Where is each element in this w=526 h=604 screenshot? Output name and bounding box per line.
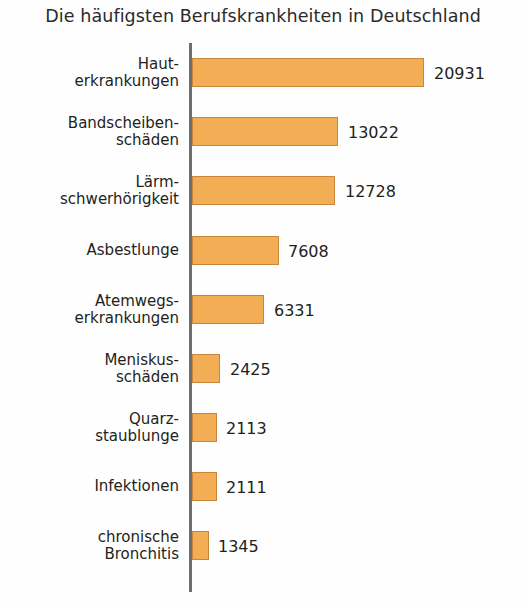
bar-value-label: 7608 (288, 241, 329, 260)
bar-row: Bandscheiben- schäden 13022 (0, 117, 526, 146)
bar-category-label: Lärm- schwerhörigkeit (0, 173, 179, 208)
plot-area: Haut- erkrankungen 20931 Bandscheiben- s… (0, 0, 526, 604)
bar-rect (192, 176, 336, 205)
bar-value-label: 2111 (226, 477, 267, 496)
bar-category-label: Meniskus- schäden (0, 351, 179, 386)
bar-rect (192, 531, 209, 560)
bar-category-label: Atemwegs- erkrankungen (0, 292, 179, 327)
bar-category-label: Asbestlunge (0, 242, 179, 260)
bar-row: Quarz- staublunge 2113 (0, 413, 526, 442)
bar-category-label: Haut- erkrankungen (0, 55, 179, 90)
bar-rect (192, 58, 425, 87)
bar-row: chronische Bronchitis 1345 (0, 531, 526, 560)
bar-value-label: 12728 (345, 181, 396, 200)
bar-category-label: chronische Bronchitis (0, 528, 179, 563)
bar-category-label: Infektionen (0, 478, 179, 496)
bar-value-label: 2113 (226, 418, 267, 437)
bar-rect (192, 117, 339, 146)
bar-rect (192, 472, 217, 501)
bar-category-label: Bandscheiben- schäden (0, 114, 179, 149)
bar-value-label: 13022 (348, 122, 399, 141)
bar-value-label: 20931 (434, 63, 485, 82)
bar-chart: Die häufigsten Berufskrankheiten in Deut… (0, 0, 526, 604)
bar-value-label: 6331 (274, 300, 315, 319)
bar-rect (192, 413, 217, 442)
bar-value-label: 1345 (218, 536, 259, 555)
bar-row: Meniskus- schäden 2425 (0, 354, 526, 383)
bar-category-label: Quarz- staublunge (0, 410, 179, 445)
bar-rect (192, 236, 279, 265)
bar-row: Infektionen 2111 (0, 472, 526, 501)
bar-rect (192, 295, 265, 324)
bar-rect (192, 354, 221, 383)
bar-row: Atemwegs- erkrankungen 6331 (0, 295, 526, 324)
bar-row: Lärm- schwerhörigkeit 12728 (0, 176, 526, 205)
bar-row: Haut- erkrankungen 20931 (0, 58, 526, 87)
bar-row: Asbestlunge 7608 (0, 236, 526, 265)
bar-value-label: 2425 (230, 359, 271, 378)
